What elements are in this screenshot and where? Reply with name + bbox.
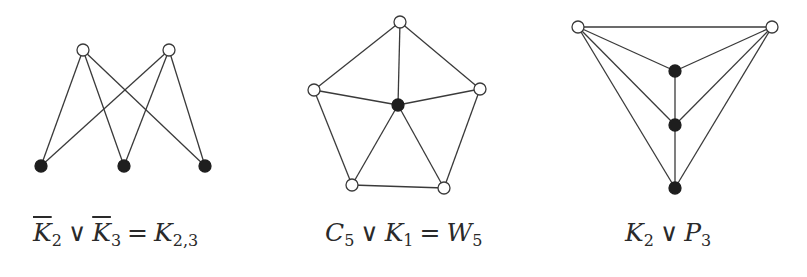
- white-vertex: [438, 182, 450, 194]
- graph-edge: [398, 22, 400, 105]
- black-vertex: [118, 160, 130, 172]
- caption-subscript: 3: [111, 231, 121, 250]
- caption-symbol: K: [385, 218, 404, 247]
- caption-symbol: K: [625, 218, 644, 247]
- caption-operator: ∨: [360, 218, 378, 247]
- graph-edge: [124, 50, 169, 166]
- graph-k2p3: [572, 21, 778, 194]
- graph-edge: [41, 50, 169, 166]
- white-vertex: [394, 16, 406, 28]
- graph-w5: [308, 16, 486, 194]
- caption-subscript: 2: [52, 231, 62, 250]
- black-vertex: [669, 119, 681, 131]
- graph-edge: [398, 105, 444, 188]
- graph-edge: [675, 27, 772, 125]
- white-vertex: [308, 84, 320, 96]
- white-vertex: [346, 179, 358, 191]
- caption-operator: =: [420, 218, 441, 247]
- graph-edge: [675, 27, 772, 71]
- white-vertex: [77, 44, 89, 56]
- caption-subscript: 2: [644, 231, 654, 250]
- graph-edge: [314, 90, 352, 185]
- caption-subscript: 5: [472, 231, 482, 250]
- graph-edge: [398, 89, 480, 105]
- caption-operator: ∨: [68, 218, 86, 247]
- caption-subscript: 5: [344, 231, 354, 250]
- caption-k2p3: K2∨P3: [625, 220, 711, 245]
- caption-symbol: K: [154, 218, 173, 247]
- graph-edge: [578, 27, 675, 125]
- black-vertex: [35, 160, 47, 172]
- caption-operator: ∨: [660, 218, 678, 247]
- caption-symbol: W: [446, 218, 472, 247]
- graph-edge: [675, 27, 772, 188]
- caption-operator: =: [127, 218, 148, 247]
- graph-edge: [314, 22, 400, 90]
- caption-subscript: 3: [701, 231, 711, 250]
- caption-symbol: C: [325, 218, 344, 247]
- caption-subscript: 2,3: [173, 231, 198, 250]
- caption-subscript: 1: [403, 231, 413, 250]
- graph-edge: [41, 50, 83, 166]
- white-vertex: [572, 21, 584, 33]
- graph-edge: [578, 27, 675, 71]
- black-vertex: [392, 99, 404, 111]
- graph-k23: [35, 44, 211, 172]
- black-vertex: [669, 182, 681, 194]
- graph-edge: [83, 50, 124, 166]
- caption-k23: K2∨K3=K2,3: [33, 220, 198, 245]
- graph-edge: [352, 185, 444, 188]
- graph-edge: [578, 27, 675, 188]
- caption-w5: C5∨K1=W5: [325, 220, 482, 245]
- black-vertex: [199, 160, 211, 172]
- graph-edge: [314, 90, 398, 105]
- caption-symbol: K: [33, 218, 52, 247]
- graph-edge: [400, 22, 480, 89]
- caption-symbol: P: [684, 218, 701, 247]
- graph-edge: [352, 105, 398, 185]
- caption-symbol: K: [92, 218, 111, 247]
- white-vertex: [474, 83, 486, 95]
- black-vertex: [669, 65, 681, 77]
- white-vertex: [163, 44, 175, 56]
- graph-edge: [444, 89, 480, 188]
- white-vertex: [766, 21, 778, 33]
